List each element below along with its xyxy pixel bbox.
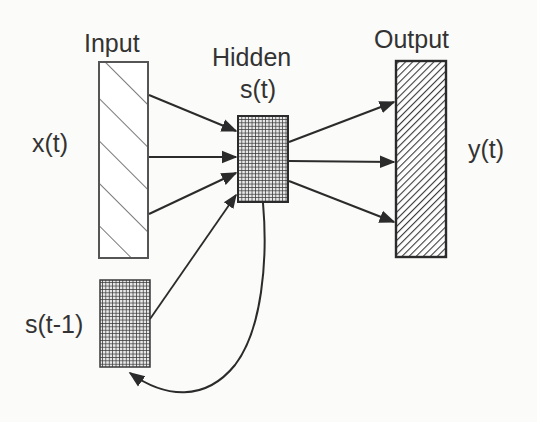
hidden-to-output-connections xyxy=(289,102,394,222)
hidden-to-output-arrow-2 xyxy=(289,161,394,162)
hidden-layer-box xyxy=(238,116,288,202)
context-layer-box xyxy=(100,280,150,367)
rnn-diagram: Input Hidden s(t) Output x(t) y(t) s(t-1… xyxy=(0,0,537,422)
input-layer-title: Input xyxy=(84,31,140,56)
hidden-to-output-arrow-3 xyxy=(289,181,394,222)
hidden-signal-label: s(t) xyxy=(240,77,276,102)
input-to-hidden-arrow-1 xyxy=(149,95,236,131)
output-layer-box xyxy=(396,61,446,257)
context-to-hidden-arrow xyxy=(150,195,236,319)
input-to-hidden-connections xyxy=(149,95,236,214)
input-signal-label: x(t) xyxy=(32,131,68,156)
output-signal-label: y(t) xyxy=(468,137,504,162)
hidden-to-output-arrow-1 xyxy=(289,102,394,142)
context-signal-label: s(t-1) xyxy=(25,312,83,337)
input-layer-box xyxy=(99,62,148,258)
output-layer-title: Output xyxy=(374,27,449,52)
input-to-hidden-arrow-3 xyxy=(149,173,236,214)
hidden-layer-title: Hidden xyxy=(212,45,291,70)
